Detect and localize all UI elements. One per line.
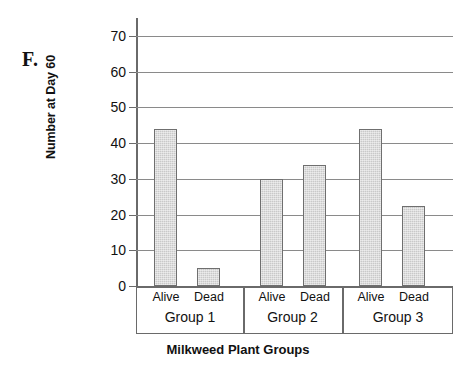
gridline — [136, 179, 453, 180]
subcategory-label: Alive — [357, 290, 384, 304]
y-axis-tick-label: 50 — [110, 99, 126, 115]
y-axis-tick — [129, 215, 136, 216]
y-axis-tick-label: 40 — [110, 135, 126, 151]
y-axis-tick — [129, 286, 136, 287]
y-axis-tick — [129, 179, 136, 180]
y-axis-tick — [129, 143, 136, 144]
group-separator — [342, 288, 344, 333]
y-axis-title: Number at Day 60 — [44, 12, 58, 202]
y-axis-tick-label: 60 — [110, 64, 126, 80]
plot-area: 010203040506070 — [136, 18, 453, 288]
bar — [154, 129, 177, 286]
y-axis-tick — [129, 36, 136, 37]
bar — [260, 179, 283, 286]
y-axis-tick — [129, 107, 136, 108]
group-label: Group 2 — [267, 309, 318, 325]
group-label: Group 1 — [165, 309, 216, 325]
x-axis-title: Milkweed Plant Groups — [0, 342, 476, 357]
y-axis-line — [136, 18, 138, 288]
y-axis-tick — [129, 72, 136, 73]
gridline — [136, 107, 453, 108]
bar — [359, 129, 382, 286]
group-label: Group 3 — [373, 309, 424, 325]
y-axis-tick-label: 30 — [110, 171, 126, 187]
y-axis-tick-label: 20 — [110, 207, 126, 223]
y-axis-tick-label: 10 — [110, 242, 126, 258]
gridline — [136, 72, 453, 73]
gridline — [136, 143, 453, 144]
chart-figure: F. Number at Day 60 010203040506070 Aliv… — [0, 0, 476, 370]
bar — [303, 165, 326, 286]
y-axis-tick-label: 70 — [110, 28, 126, 44]
y-axis-tick-label: 0 — [118, 278, 126, 294]
bar — [402, 206, 425, 286]
bar — [197, 268, 220, 286]
category-label-box: AliveDeadGroup 1AliveDeadGroup 2AliveDea… — [136, 288, 453, 334]
subcategory-label: Alive — [258, 290, 285, 304]
subcategory-label: Dead — [399, 290, 429, 304]
panel-letter: F. — [22, 48, 38, 71]
subcategory-label: Dead — [194, 290, 224, 304]
y-axis-tick — [129, 250, 136, 251]
subcategory-label: Dead — [300, 290, 330, 304]
group-separator — [243, 288, 245, 333]
subcategory-label: Alive — [152, 290, 179, 304]
gridline — [136, 36, 453, 37]
